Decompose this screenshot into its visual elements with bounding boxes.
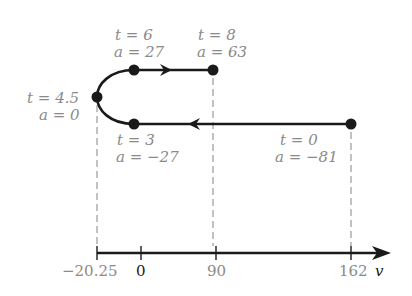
label-t8-accel: a = 63: [197, 43, 247, 61]
label-t0-time: t = 0: [280, 131, 318, 149]
label-t4-5-time: t = 4.5: [27, 89, 79, 107]
point-t8: [208, 65, 219, 76]
point-t0: [346, 119, 357, 130]
label-t3-accel: a = −27: [116, 148, 179, 166]
velocity-motion-diagram: t = 6 a = 27 t = 8 a = 63 t = 4.5 a = 0 …: [0, 0, 412, 296]
point-t6: [129, 65, 140, 76]
tick-label-0: 0: [136, 262, 146, 280]
tick-label-162: 162: [339, 262, 368, 280]
label-t8-time: t = 8: [198, 26, 236, 44]
label-t0-accel: a = −81: [275, 148, 338, 166]
point-t4-5: [92, 92, 103, 103]
label-t6-accel: a = 27: [114, 43, 165, 61]
label-t4-5-accel: a = 0: [39, 106, 80, 124]
label-t6-time: t = 6: [115, 26, 153, 44]
point-t3: [129, 119, 140, 130]
label-t3-time: t = 3: [117, 131, 155, 149]
axis-variable-label: v: [375, 262, 384, 280]
motion-path-curve: [97, 70, 134, 124]
tick-label-neg20: −20.25: [62, 262, 118, 280]
tick-label-90: 90: [207, 262, 226, 280]
